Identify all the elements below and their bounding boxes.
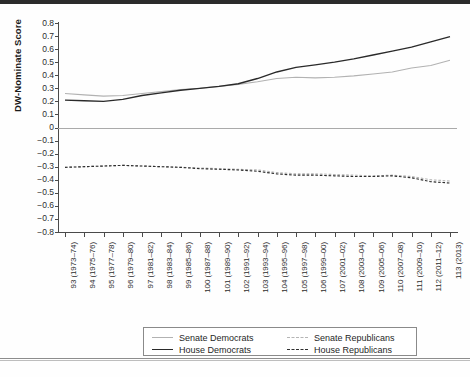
x-tick-label: 97 (1981–82): [146, 242, 155, 288]
legend-item-label: House Republicans: [314, 345, 392, 355]
legend-swatch-icon: [287, 346, 308, 354]
y-tick-label: −0.2: [18, 149, 54, 158]
x-tick-mark: [373, 233, 374, 237]
series-line-house-republicans: [65, 165, 450, 183]
x-tick-label: 108 (2003–04): [357, 242, 366, 293]
x-tick-mark: [412, 233, 413, 237]
series-line-senate-republicans: [65, 165, 450, 181]
x-tick-label: 105 (1997–98): [300, 242, 309, 293]
y-tick-label: 0.4: [18, 71, 54, 80]
x-tick-label: 95 (1977–78): [107, 242, 116, 288]
legend-item-label: House Democrats: [179, 345, 251, 355]
x-tick-mark: [181, 233, 182, 237]
chart-legend: Senate DemocratsSenate RepublicansHouse …: [143, 327, 417, 356]
y-tick-label: 0.7: [18, 32, 54, 41]
x-tick-mark: [219, 233, 220, 237]
x-tick-label: 110 (2007–08): [396, 242, 405, 292]
x-tick-mark: [277, 233, 278, 237]
legend-swatch-icon: [287, 334, 308, 342]
x-tick-label: 113 (2013): [454, 242, 463, 279]
x-tick-mark: [142, 233, 143, 237]
legend-item[interactable]: House Republicans: [287, 343, 392, 356]
series-line-house-democrats: [65, 37, 450, 102]
y-tick-label: −0.4: [18, 175, 54, 184]
x-tick-label: 100 (1987–88): [203, 242, 212, 293]
y-tick-label: 0.3: [18, 84, 54, 93]
x-tick-mark: [354, 233, 355, 237]
x-tick-label: 94 (1975–76): [88, 242, 97, 288]
x-tick-label: 99 (1985–86): [184, 242, 193, 288]
x-tick-mark: [431, 233, 432, 237]
y-tick-label: 0.2: [18, 97, 54, 106]
y-tick-label: 0.5: [18, 58, 54, 67]
x-tick-label: 109 (2005–06): [377, 242, 386, 293]
top-band: [0, 0, 470, 4]
x-tick-mark: [200, 233, 201, 237]
x-tick-mark: [296, 233, 297, 237]
plot-area: [58, 23, 457, 232]
series-lines: [58, 23, 457, 232]
x-tick-label: 112 (2011–12): [434, 242, 443, 292]
x-tick-mark: [238, 233, 239, 237]
y-tick-label: −0.6: [18, 201, 54, 210]
x-tick-label: 102 (1991–92): [242, 242, 251, 293]
x-tick-mark: [104, 233, 105, 237]
x-tick-mark: [450, 233, 451, 237]
legend-swatch-icon: [152, 346, 173, 354]
y-tick-label: 0.8: [18, 19, 54, 28]
x-tick-mark: [335, 233, 336, 237]
x-tick-label: 106 (1999–00): [319, 242, 328, 293]
legend-item-label: Senate Democrats: [179, 333, 254, 343]
x-tick-mark: [258, 233, 259, 237]
x-tick-label: 101 (1989–90): [223, 242, 232, 293]
footer-rule: [0, 358, 470, 359]
x-tick-label: 111 (2009–10): [415, 242, 424, 292]
x-tick-label: 107 (2001–02): [338, 242, 347, 293]
chart-page: DW-Nominate Score 0.80.70.60.50.40.30.20…: [0, 0, 470, 377]
x-tick-label: 93 (1973–74): [69, 242, 78, 288]
y-tick-label: 0.1: [18, 110, 54, 119]
x-tick-label: 96 (1979–80): [126, 242, 135, 288]
y-tick-label: 0.6: [18, 45, 54, 54]
y-tick-label: −0.5: [18, 188, 54, 197]
x-tick-mark: [123, 233, 124, 237]
x-tick-label: 103 (1993–94): [261, 242, 270, 293]
x-tick-label: 104 (1995–96): [280, 242, 289, 293]
y-tick-label: −0.8: [18, 228, 54, 237]
y-tick-label: −0.1: [18, 136, 54, 145]
legend-item[interactable]: House Democrats: [152, 343, 251, 356]
legend-item-label: Senate Republicans: [314, 333, 395, 343]
y-tick-label: −0.7: [18, 214, 54, 223]
footer-rule-secondary: [0, 360, 470, 361]
x-tick-mark: [84, 233, 85, 237]
x-tick-mark: [161, 233, 162, 237]
x-tick-mark: [315, 233, 316, 237]
x-tick-label: 98 (1983–84): [165, 242, 174, 288]
legend-swatch-icon: [152, 334, 173, 342]
x-tick-mark: [65, 233, 66, 237]
y-tick-label: −0.3: [18, 162, 54, 171]
y-tick-label: 0: [18, 123, 54, 132]
x-tick-mark: [392, 233, 393, 237]
